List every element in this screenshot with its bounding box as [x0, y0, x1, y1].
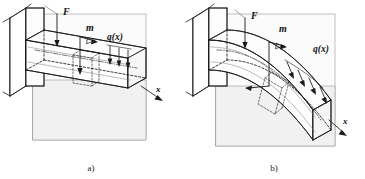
label-distributed-load-qx: q(x)	[313, 44, 329, 55]
panel-a-drawing: F m q(x) x	[0, 0, 182, 179]
label-moment-m: m	[279, 23, 287, 34]
panel-b: F m q(x) x b)	[183, 0, 365, 179]
label-moment-m: m	[86, 22, 94, 33]
reference-plane-horizontal	[33, 80, 146, 140]
figure-beam-deformation: F m q(x) x a)	[0, 0, 365, 179]
caption-panel-b: b)	[183, 163, 365, 173]
label-distributed-load-qx: q(x)	[107, 32, 123, 43]
label-axis-x: x	[155, 84, 161, 94]
caption-panel-a: a)	[0, 163, 182, 173]
label-axis-x: x	[342, 116, 348, 126]
panel-a: F m q(x) x a)	[0, 0, 182, 179]
label-force-F: F	[62, 6, 70, 17]
panel-b-drawing: F m q(x) x	[183, 0, 365, 179]
label-force-F: F	[250, 10, 258, 21]
